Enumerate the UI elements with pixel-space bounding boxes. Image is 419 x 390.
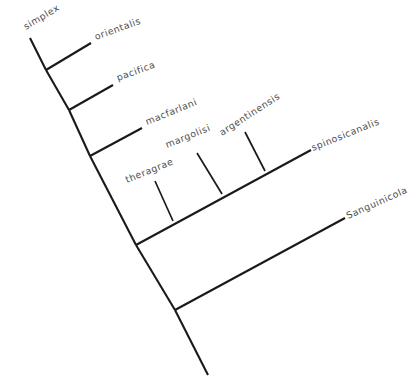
branch-to-argentinensis (245, 132, 265, 171)
branch-node3-to-node4 (69, 110, 90, 156)
taxon-label-pacifica: pacifica (115, 59, 157, 83)
taxon-label-macfarlani: macfarlani (144, 96, 199, 127)
phylogenetic-tree-figure: simplex orientalis pacifica macfarlani m… (0, 0, 419, 390)
branch-node5-to-simplex (30, 38, 46, 70)
taxon-labels: simplex orientalis pacifica macfarlani m… (21, 2, 409, 221)
taxon-label-spinosicanalis: spinosicanalis (310, 116, 381, 153)
taxon-label-margolisi: margolisi (164, 122, 212, 150)
branch-root-to-node1 (175, 310, 208, 375)
branch-node1-to-node2 (136, 245, 175, 310)
taxon-label-simplex: simplex (21, 2, 61, 32)
backbone-branches (30, 38, 208, 375)
branch-to-pacifica (69, 85, 113, 110)
taxon-label-orientalis: orientalis (93, 15, 142, 42)
taxon-label-theragrae: theragrae (124, 156, 175, 185)
branch-to-theragrae (155, 181, 173, 221)
branch-to-macfarlani (90, 128, 142, 156)
cladogram-canvas: simplex orientalis pacifica macfarlani m… (0, 0, 419, 390)
branch-node4-to-node5 (46, 70, 69, 110)
branch-to-sanguinicola (175, 218, 345, 310)
branch-to-orientalis (46, 43, 91, 70)
branch-node2-to-node3 (90, 156, 136, 245)
branch-to-margolisi (197, 153, 222, 194)
taxon-label-sanguinicola: Sanguinicola (344, 184, 409, 221)
terminal-branches (46, 43, 345, 310)
taxon-label-argentinensis: argentinensis (217, 90, 282, 137)
